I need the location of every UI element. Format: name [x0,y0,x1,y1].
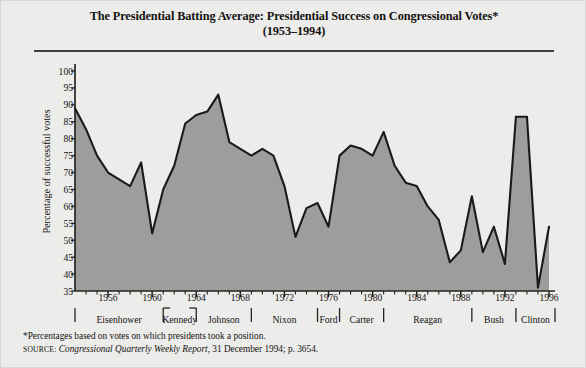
x-axis-tick-label: 1956 [98,293,117,303]
chart-title-line-2: (1953–1994) [1,24,586,39]
source-publication: Congressional Quarterly Weekly Report, [59,344,210,354]
president-term-label: Clinton [521,315,550,325]
chart-title-block: The Presidential Batting Average: Presid… [1,9,586,39]
president-term-label: Eisenhower [96,315,141,325]
footnote-text: *Percentages based on votes on which pre… [23,331,573,343]
president-term-label: Johnson [208,315,239,325]
x-axis-tick-label: 1988 [451,293,470,303]
notes-block: *Percentages based on votes on which pre… [23,331,573,355]
president-term-label: Carter [350,315,374,325]
figure-container: The Presidential Batting Average: Presid… [0,0,586,368]
chart-title-line-1: The Presidential Batting Average: Presid… [1,9,586,24]
source-label: SOURCE: [23,345,56,354]
x-axis-tick-label: 1992 [495,293,514,303]
president-term-label: Nixon [272,315,296,325]
x-axis-tick-label: 1960 [143,293,162,303]
x-axis-tick-label: 1996 [539,293,558,303]
plot-area-wrapper: Percentage of successful votes 354045505… [1,56,586,306]
x-axis-tick-labels: 1956196019641968197219761980198419881992… [1,293,586,307]
x-axis-tick-label: 1964 [187,293,206,303]
x-axis-tick-label: 1976 [319,293,338,303]
president-term-label: Kennedy [162,315,197,325]
x-axis-tick-label: 1984 [407,293,426,303]
president-term-label: Bush [484,315,504,325]
source-text: SOURCE: Congressional Quarterly Weekly R… [23,344,573,356]
chart-plot-svg [1,56,586,306]
president-term-band: EisenhowerKennedyJohnsonNixonFordCarterR… [1,306,586,328]
x-axis-tick-label: 1972 [275,293,294,303]
president-term-label: Reagan [413,315,442,325]
source-detail: 31 December 1994; p. 3654. [210,344,318,354]
title-divider-rule [34,50,554,52]
president-term-label: Ford [319,315,337,325]
x-axis-tick-label: 1968 [231,293,250,303]
x-axis-tick-label: 1980 [363,293,382,303]
